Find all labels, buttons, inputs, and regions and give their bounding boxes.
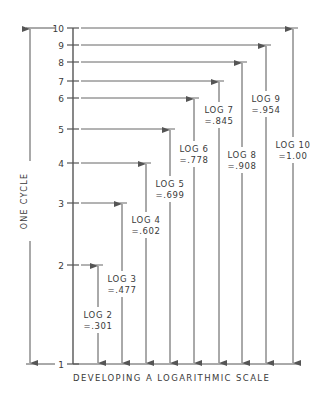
log-name: LOG 9: [252, 94, 281, 104]
log-name: LOG 5: [156, 179, 185, 189]
log-value: =.477: [107, 285, 136, 295]
log-name: LOG 4: [132, 215, 161, 225]
log-value: =.845: [204, 116, 233, 126]
log-scale-diagram: ONE CYCLE 12345678910 LOG 2=.301LOG 3=.4…: [0, 0, 322, 398]
tick-label: 9: [58, 41, 64, 51]
tick-label: 8: [58, 58, 64, 68]
log-value: =.602: [131, 226, 160, 236]
log-name: LOG 7: [205, 105, 234, 115]
log-value: =.301: [83, 321, 112, 331]
tick-label: 3: [58, 199, 64, 209]
log-value: =.908: [227, 161, 256, 171]
tick-label: 5: [58, 125, 64, 135]
one-cycle-label: ONE CYCLE: [20, 173, 29, 230]
tick-label: 4: [58, 159, 64, 169]
log-value: =.699: [155, 190, 184, 200]
tick-label: 2: [58, 261, 64, 271]
log-arrow-10: LOG 10=1.00: [81, 28, 310, 363]
log-name: LOG 8: [228, 150, 257, 160]
diagram-caption: DEVELOPING A LOGARITHMIC SCALE: [73, 373, 270, 383]
log-arrow-3: LOG 3=.477: [81, 203, 137, 363]
tick-label: 7: [58, 77, 64, 87]
log-name: LOG 3: [108, 274, 137, 284]
tick-label: 10: [53, 24, 65, 34]
tick-label: 6: [58, 94, 64, 104]
log-name: LOG 2: [84, 310, 113, 320]
log-arrows: LOG 2=.301LOG 3=.477LOG 4=.602LOG 5=.699…: [81, 28, 310, 363]
log-name: LOG 10: [276, 140, 311, 150]
one-cycle-dimension: ONE CYCLE: [20, 28, 55, 364]
tick-label: 1: [58, 360, 64, 370]
log-value: =.954: [251, 105, 280, 115]
diagram-svg: ONE CYCLE 12345678910 LOG 2=.301LOG 3=.4…: [0, 0, 322, 398]
log-value: =1.00: [278, 151, 307, 161]
log-name: LOG 6: [180, 144, 209, 154]
log-arrow-4: LOG 4=.602: [81, 163, 161, 363]
log-value: =.778: [179, 155, 208, 165]
